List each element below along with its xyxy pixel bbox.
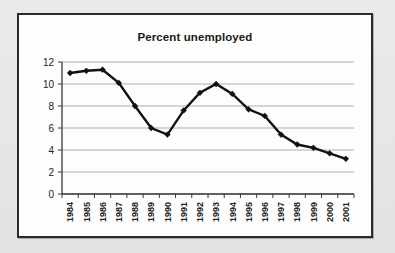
series-line-percent-unemployed	[70, 70, 346, 159]
data-point-1985	[83, 68, 89, 74]
x-tick-label-1985: 1985	[82, 202, 92, 222]
x-tick-label-1997: 1997	[276, 202, 286, 222]
gridlines-group	[62, 62, 354, 194]
y-tick-label-0: 0	[48, 189, 54, 200]
data-point-2000	[327, 150, 333, 156]
x-tick-label-1994: 1994	[228, 202, 238, 222]
x-tick-label-1998: 1998	[292, 202, 302, 222]
y-axis-tick-group: 024681012	[43, 57, 62, 200]
x-tick-label-1996: 1996	[260, 202, 270, 222]
x-tick-label-1984: 1984	[65, 202, 75, 222]
y-tick-label-10: 10	[43, 79, 55, 90]
y-tick-label-12: 12	[43, 57, 55, 68]
chart-figure-frame: Percent unemployed 024681012 19841985198…	[17, 13, 373, 238]
y-tick-label-4: 4	[48, 145, 54, 156]
x-tick-label-1993: 1993	[211, 202, 221, 222]
x-tick-label-1987: 1987	[114, 202, 124, 222]
x-tick-label-1986: 1986	[98, 202, 108, 222]
x-tick-label-1989: 1989	[146, 202, 156, 222]
x-axis-tick-group: 1984198519861987198819891990199119921993…	[62, 194, 354, 222]
x-tick-label-1991: 1991	[179, 202, 189, 222]
x-tick-label-1999: 1999	[309, 202, 319, 222]
y-tick-label-6: 6	[48, 123, 54, 134]
x-tick-label-1990: 1990	[163, 202, 173, 222]
x-tick-label-2000: 2000	[325, 202, 335, 222]
x-tick-label-1995: 1995	[244, 202, 254, 222]
y-tick-label-2: 2	[48, 167, 54, 178]
x-tick-label-1988: 1988	[130, 202, 140, 222]
data-point-2001	[343, 156, 349, 162]
x-tick-label-2001: 2001	[341, 202, 351, 222]
y-tick-label-8: 8	[48, 101, 54, 112]
data-point-1984	[67, 70, 73, 76]
line-chart-plot: 024681012 198419851986198719881989199019…	[19, 15, 375, 240]
x-tick-label-1992: 1992	[195, 202, 205, 222]
